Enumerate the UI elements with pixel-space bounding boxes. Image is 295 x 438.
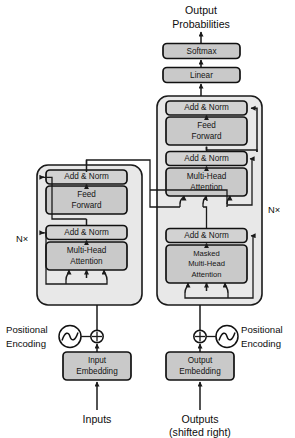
encoder-positional-add [91,330,103,342]
transformer-architecture-diagram: Output Probabilities Softmax Linear Add … [0,0,295,438]
encoder-repeat-label: N× [16,233,28,244]
output-probabilities-label-line2: Probabilities [172,18,230,30]
input-embedding-label-line2: Embedding [76,367,118,376]
output-embedding-label-line1: Output [188,356,213,365]
decoder-add-norm-middle-label: Add & Norm [184,154,229,163]
input-embedding-label-line1: Input [88,356,107,365]
output-embedding-label-line2: Embedding [179,367,221,376]
encoder-positional-encoding-symbol [59,326,91,348]
inputs-label: Inputs [83,413,112,425]
encoder-positional-label-line2: Encoding [6,338,46,349]
decoder-positional-encoding-symbol [206,326,238,348]
encoder-positional-label-line1: Positional [6,324,48,335]
encoder-mha-label-line2: Attention [70,257,103,266]
softmax-label: Softmax [186,47,216,56]
decoder-positional-label-line1: Positional [241,324,283,335]
decoder-feed-forward-label-line2: Forward [191,132,221,141]
decoder-positional-add [194,330,206,342]
outputs-label-line1: Outputs [181,413,218,425]
output-probabilities-label-line1: Output [185,4,217,16]
encoder-add-norm-upper-label: Add & Norm [64,172,109,181]
decoder-add-norm-bottom-label: Add & Norm [184,231,229,240]
outputs-label-line2: (shifted right) [169,426,231,438]
decoder-positional-label-line2: Encoding [241,338,281,349]
decoder-masked-mha-label-line1: Masked [193,249,220,258]
encoder-add-norm-lower-label: Add & Norm [64,228,109,237]
linear-label: Linear [190,71,213,80]
decoder-mha-label-line1: Multi-Head [187,172,227,181]
decoder-masked-mha-label-line2: Multi-Head [188,259,225,268]
decoder-repeat-label: N× [268,204,280,215]
encoder-feed-forward-label-line2: Forward [71,201,101,210]
output-embedding-block: Output Embedding [166,352,234,380]
softmax-block: Softmax [163,44,240,59]
decoder-feed-forward-label-line1: Feed [197,121,216,130]
decoder-stack: Add & Norm Feed Forward Add & Norm Multi… [157,96,262,305]
input-embedding-block: Input Embedding [63,352,131,380]
encoder-feed-forward-label-line1: Feed [77,190,96,199]
encoder-mha-label-line1: Multi-Head [67,246,107,255]
decoder-masked-mha-label-line3: Attention [192,270,222,279]
linear-block: Linear [163,68,240,83]
decoder-add-norm-top-label: Add & Norm [184,103,229,112]
encoder-stack: Add & Norm Feed Forward Add & Norm Multi… [37,165,142,305]
